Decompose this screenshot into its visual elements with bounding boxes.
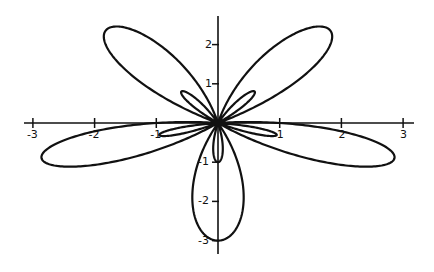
polar-plot: -3-2-1123 21-1-2-3 (0, 0, 434, 272)
y-tick-label: 2 (205, 38, 212, 51)
y-tick-label: -2 (198, 194, 209, 207)
y-ticks: 21-1-2-3 (198, 38, 219, 247)
y-tick-label: -3 (198, 234, 209, 247)
x-tick-label: 3 (400, 128, 407, 141)
y-tick-label: 1 (205, 77, 212, 90)
x-tick-label: -3 (27, 128, 38, 141)
